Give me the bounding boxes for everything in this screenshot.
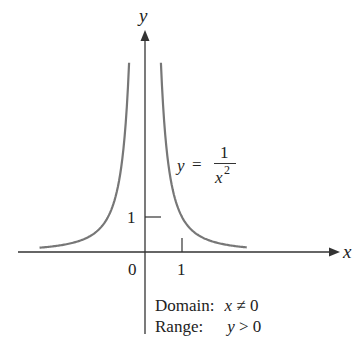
domain-var: x — [225, 296, 233, 315]
y-tick-1-label: 1 — [127, 209, 136, 226]
y-axis-arrow-icon — [141, 30, 150, 41]
equation-label: y = 1 x 2 — [177, 144, 257, 194]
domain-label: Domain: — [155, 296, 215, 315]
equation-lhs: y — [177, 157, 185, 174]
domain-condition: ≠ 0 — [232, 296, 258, 315]
domain-line: Domain: x ≠ 0 — [155, 297, 258, 315]
equation-denominator-exponent: 2 — [224, 164, 230, 176]
equation-numerator: 1 — [220, 144, 229, 161]
x-axis-label: x — [343, 242, 351, 261]
curve-left-branch — [40, 63, 130, 248]
x-tick-1-label: 1 — [177, 261, 186, 278]
equation-denominator-base: x — [215, 169, 223, 186]
range-line: Range: y > 0 — [155, 318, 261, 336]
x-axis-arrow-icon — [329, 248, 340, 257]
equation-equals: = — [192, 156, 202, 173]
origin-label: 0 — [128, 261, 137, 278]
range-label: Range: — [155, 317, 203, 336]
y-axis-label: y — [139, 6, 147, 25]
range-var: y — [227, 317, 235, 336]
range-condition: > 0 — [235, 317, 262, 336]
